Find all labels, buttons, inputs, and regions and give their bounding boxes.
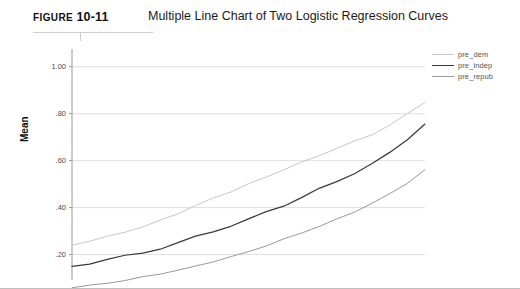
legend-swatch-icon	[432, 76, 454, 77]
series-line-pre_dem	[72, 102, 425, 245]
y-tick-label: .60	[36, 156, 66, 165]
y-axis-label: Mean	[19, 82, 30, 142]
y-tick-label: .20	[36, 250, 66, 259]
legend-label: pre_dem	[458, 50, 488, 59]
chart-legend: pre_dempre_indeppre_repub	[432, 49, 493, 82]
legend-swatch-icon	[432, 65, 454, 66]
legend-swatch-icon	[432, 54, 454, 55]
figure-page: FIGURE 10-11 Multiple Line Chart of Two …	[0, 0, 520, 289]
chart-svg	[0, 0, 520, 289]
legend-item-pre_repub[interactable]: pre_repub	[432, 71, 493, 82]
legend-item-pre_dem[interactable]: pre_dem	[432, 49, 493, 60]
y-tick-label: 1.00	[36, 62, 66, 71]
legend-item-pre_indep[interactable]: pre_indep	[432, 60, 493, 71]
line-chart: Mean 1.00.80.60.40.20	[0, 0, 520, 289]
y-tick-label: .80	[36, 109, 66, 118]
legend-label: pre_repub	[458, 72, 493, 81]
legend-label: pre_indep	[458, 61, 492, 70]
series-line-pre_repub	[72, 170, 425, 288]
y-tick-label: .40	[36, 203, 66, 212]
series-line-pre_indep	[72, 124, 425, 266]
